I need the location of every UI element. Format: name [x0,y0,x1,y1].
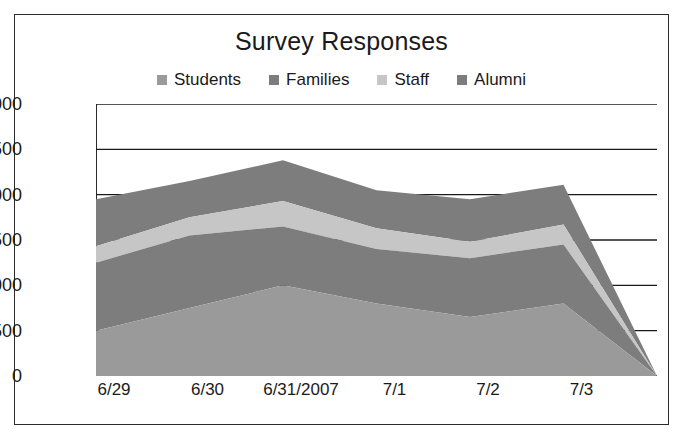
x-tick-label: 7/3 [570,380,594,400]
x-tick-label: 6/31/2007 [263,380,339,400]
y-tick-label: 1,500 [0,230,22,251]
legend-item-students[interactable]: Students [157,70,241,90]
plot-wrap [96,104,657,376]
x-tick-label: 6/30 [191,380,224,400]
legend-swatch-staff [377,75,387,85]
legend-swatch-families [269,75,279,85]
legend-label-students: Students [174,70,241,90]
chart-legend: Students Families Staff Alumni [15,70,668,90]
chart-title: Survey Responses [15,27,668,56]
y-tick-label: 1,000 [0,275,22,296]
legend-item-staff[interactable]: Staff [377,70,429,90]
legend-item-families[interactable]: Families [269,70,349,90]
y-tick-label: 3,000 [0,94,22,115]
chart-frame: Survey Responses Students Families Staff… [14,14,669,425]
y-tick-label: 500 [0,320,22,341]
stacked-area-plot [96,104,657,376]
y-tick-label: 0 [0,366,22,387]
x-tick-label: 6/29 [97,380,130,400]
legend-item-alumni[interactable]: Alumni [457,70,526,90]
y-tick-label: 2,000 [0,184,22,205]
legend-label-families: Families [286,70,349,90]
legend-label-alumni: Alumni [474,70,526,90]
legend-swatch-students [157,75,167,85]
x-tick-label: 7/1 [383,380,407,400]
y-tick-label: 2,500 [0,139,22,160]
legend-swatch-alumni [457,75,467,85]
legend-label-staff: Staff [394,70,429,90]
x-tick-label: 7/2 [476,380,500,400]
